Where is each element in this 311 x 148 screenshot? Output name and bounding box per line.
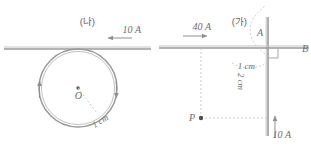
panel-caption-ga: (가) <box>232 14 247 28</box>
label-straight-current-na: 10 A <box>123 25 141 35</box>
panel-caption-na: (나) <box>80 14 95 28</box>
panel-na-graphics <box>0 0 155 148</box>
label-1cm-ga: 1 cm <box>238 62 255 71</box>
label-2cm-ga: 2 cm <box>236 73 245 90</box>
panel-ga: 40 A 10 A A B 1 cm 2 cm P (가) <box>155 0 311 148</box>
label-wire-b-ga: B <box>302 44 308 54</box>
panel-na-stage: 10 A O 1 cm (나) <box>0 0 155 148</box>
point-p-dot <box>199 116 203 120</box>
construction-lines-ga <box>201 47 267 118</box>
label-loop-center-na: O <box>75 91 82 101</box>
panel-na: 10 A O 1 cm (나) <box>0 0 155 148</box>
label-10a-ga: 10 A <box>273 130 291 140</box>
label-wire-a-ga: A <box>257 28 263 38</box>
panel-ga-stage: 40 A 10 A A B 1 cm 2 cm P (가) <box>155 0 311 148</box>
label-40a-ga: 40 A <box>193 22 211 32</box>
label-point-p-ga: P <box>189 113 195 123</box>
horizontal-wire-b <box>159 46 309 48</box>
figure-root: 10 A O 1 cm (나) <box>0 0 311 148</box>
